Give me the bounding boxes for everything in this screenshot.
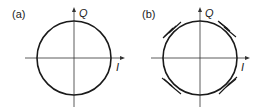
i-axis-label: I <box>116 61 119 73</box>
spike-upper-left-tail <box>163 28 173 38</box>
q-axis-arrow-icon <box>198 7 202 12</box>
q-axis-label: Q <box>79 7 88 19</box>
i-axis-arrow-icon <box>245 56 250 60</box>
panel-a: (a) Q I <box>0 0 129 111</box>
q-axis-arrow-icon <box>72 7 76 12</box>
panel-label: (a) <box>12 8 25 20</box>
i-axis-label: I <box>241 61 244 73</box>
panel-b: (b) Q I <box>129 0 258 111</box>
spike-lower-right <box>219 79 236 94</box>
q-axis-label: Q <box>205 7 214 19</box>
panel-label: (b) <box>142 8 155 20</box>
i-axis-arrow-icon <box>120 56 125 60</box>
spike-upper-right-tail <box>218 21 228 29</box>
